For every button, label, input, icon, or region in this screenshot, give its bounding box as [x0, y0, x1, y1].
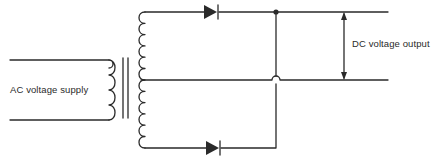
ac-voltage-supply-label: AC voltage supply	[10, 84, 88, 95]
center-tap-wire	[141, 76, 388, 80]
dc-voltage-output-label: DC voltage output	[352, 38, 430, 49]
junction-dot	[273, 9, 278, 14]
primary-coil	[109, 60, 115, 120]
diode-top-icon	[204, 5, 217, 19]
arrow-head-down-icon	[341, 72, 347, 80]
diode-bottom-icon	[206, 141, 219, 155]
arrow-head-up-icon	[341, 12, 347, 20]
bottom-wire	[145, 84, 276, 148]
